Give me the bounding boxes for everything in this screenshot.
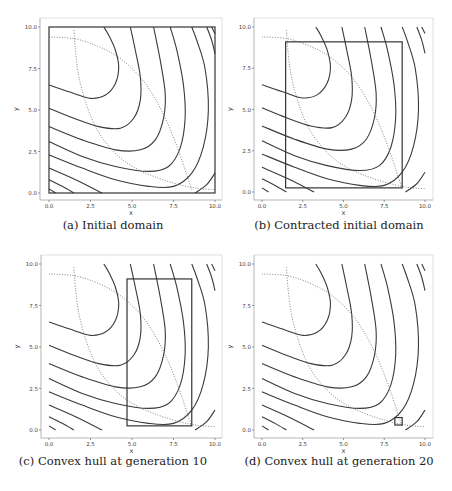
y-tick-label: 10.0 xyxy=(26,261,39,267)
y-tick-label: 2.5 xyxy=(242,148,251,154)
panel-a: 0.02.55.07.510.00.02.55.07.510.0xy (a) I… xyxy=(0,0,226,245)
y-tick-label: 5.0 xyxy=(29,344,38,350)
y-tick-label: 0.0 xyxy=(29,427,38,433)
contour-line xyxy=(195,410,215,430)
contour-line xyxy=(49,264,208,425)
contour-line xyxy=(49,405,102,430)
contour-group xyxy=(49,264,215,430)
plot-frame xyxy=(40,18,222,200)
x-tick-label: 0.0 xyxy=(258,203,267,209)
x-tick-label: 7.5 xyxy=(380,203,389,209)
y-tick-label: 10.0 xyxy=(25,24,38,30)
y-tick-label: 2.5 xyxy=(242,386,251,392)
contour-line xyxy=(262,264,352,366)
x-tick-label: 2.5 xyxy=(298,203,307,209)
x-tick-label: 0.0 xyxy=(45,441,54,447)
contour-line xyxy=(195,173,215,193)
panel-d: 0.02.55.07.510.00.02.55.07.510.0xy (d) C… xyxy=(226,245,452,490)
y-axis-label: y xyxy=(12,107,20,111)
domain-rectangle xyxy=(49,27,215,193)
dotted-curve xyxy=(262,37,402,189)
x-tick-label: 10.0 xyxy=(419,441,432,447)
contour-line xyxy=(49,264,165,388)
y-tick-label: 7.5 xyxy=(242,303,251,309)
contour-line xyxy=(212,264,215,271)
dotted-curve xyxy=(262,274,402,427)
plot-a: 0.02.55.07.510.00.02.55.07.510.0xy xyxy=(0,0,226,245)
x-axis-label: x xyxy=(129,209,133,217)
caption-d: (d) Convex hull at generation 20 xyxy=(226,454,452,468)
caption-c: (c) Convex hull at generation 10 xyxy=(0,454,226,468)
domain-rectangle xyxy=(395,418,402,425)
plot-b: 0.02.55.07.510.00.02.55.07.510.0xy xyxy=(226,0,452,245)
contour-line xyxy=(262,426,269,430)
contour-group xyxy=(49,27,215,193)
y-tick-label: 7.5 xyxy=(28,66,37,72)
y-axis-label: y xyxy=(226,344,234,348)
contour-line xyxy=(422,27,425,34)
contour-line xyxy=(262,27,330,98)
contour-line xyxy=(262,188,269,192)
dotted-curve xyxy=(49,274,192,427)
contour-line xyxy=(49,27,165,151)
dotted-curve xyxy=(286,30,425,188)
contour-group xyxy=(262,264,425,430)
y-tick-label: 10.0 xyxy=(239,261,252,267)
y-tick-label: 0.0 xyxy=(242,189,251,195)
contour-line xyxy=(262,405,314,430)
y-tick-label: 7.5 xyxy=(29,303,38,309)
contour-line xyxy=(49,426,56,430)
y-tick-label: 5.0 xyxy=(242,344,251,350)
x-tick-label: 7.5 xyxy=(169,441,178,447)
x-tick-label: 10.0 xyxy=(209,203,222,209)
contour-line xyxy=(262,264,376,388)
contour-line xyxy=(49,168,102,193)
y-tick-label: 10.0 xyxy=(239,24,252,30)
contour-line xyxy=(49,27,141,129)
y-tick-label: 2.5 xyxy=(28,149,37,155)
contour-line xyxy=(262,27,376,150)
plot-frame xyxy=(254,18,433,200)
contour-line xyxy=(422,264,425,271)
x-tick-label: 7.5 xyxy=(380,441,389,447)
panel-b: 0.02.55.07.510.00.02.55.07.510.0xy (b) C… xyxy=(226,0,452,245)
x-tick-label: 0.0 xyxy=(258,441,267,447)
contour-line xyxy=(49,27,208,188)
y-tick-label: 2.5 xyxy=(29,386,38,392)
y-tick-label: 5.0 xyxy=(242,107,251,113)
contour-line xyxy=(49,189,56,193)
contour-line xyxy=(262,264,330,335)
dotted-curve xyxy=(74,267,215,426)
panel-c: 0.02.55.07.510.00.02.55.07.510.0xy (c) C… xyxy=(0,245,226,490)
x-tick-label: 0.0 xyxy=(45,203,54,209)
y-axis-label: y xyxy=(226,107,234,111)
x-tick-label: 10.0 xyxy=(209,441,222,447)
x-tick-label: 2.5 xyxy=(86,441,95,447)
plot-frame xyxy=(254,255,433,438)
dotted-curve xyxy=(49,37,192,190)
x-tick-label: 2.5 xyxy=(86,203,95,209)
domain-rectangle xyxy=(127,279,192,426)
y-tick-label: 7.5 xyxy=(242,65,251,71)
contour-line xyxy=(405,172,425,192)
contour-line xyxy=(405,410,425,430)
x-tick-label: 10.0 xyxy=(419,203,432,209)
y-tick-label: 0.0 xyxy=(242,427,251,433)
x-axis-label: x xyxy=(342,209,346,217)
x-tick-label: 2.5 xyxy=(298,441,307,447)
contour-group xyxy=(262,27,425,192)
dotted-curve xyxy=(286,267,425,426)
dotted-curve xyxy=(74,30,215,189)
y-axis-label: y xyxy=(13,344,21,348)
caption-a: (a) Initial domain xyxy=(0,218,226,232)
x-tick-label: 7.5 xyxy=(169,203,178,209)
plot-frame xyxy=(41,255,222,438)
y-tick-label: 5.0 xyxy=(28,107,37,113)
caption-b: (b) Contracted initial domain xyxy=(226,218,452,232)
y-tick-label: 0.0 xyxy=(28,190,37,196)
